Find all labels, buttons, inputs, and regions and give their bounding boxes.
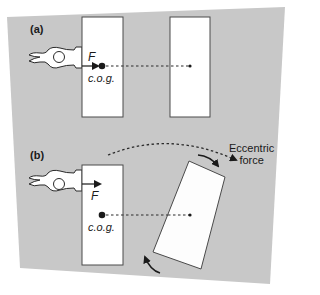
cog-label: c.o.g.: [88, 222, 115, 233]
force-label: F: [88, 51, 95, 63]
cog-dot: [99, 63, 106, 70]
cog-dot: [99, 212, 106, 219]
cog-label: c.o.g.: [88, 73, 115, 84]
panel-a-label: (a): [30, 24, 43, 35]
eccentric-label-line2: force: [229, 155, 274, 166]
eccentric-label-line1: Eccentric: [229, 143, 274, 154]
cog-dot-end: [188, 64, 191, 67]
panel-b-label: (b): [30, 150, 44, 161]
eccentric-force-label: Eccentric force: [229, 143, 274, 166]
force-label: F: [91, 190, 98, 202]
